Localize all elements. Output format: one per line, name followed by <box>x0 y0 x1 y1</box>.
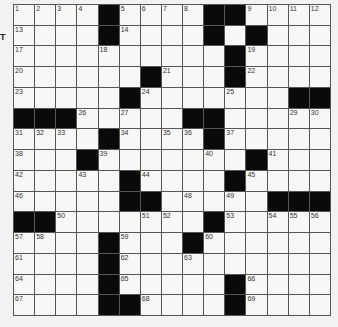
grid-cell[interactable] <box>204 295 224 315</box>
grid-cell[interactable]: 31 <box>14 129 34 149</box>
grid-cell[interactable] <box>99 67 119 87</box>
grid-cell[interactable] <box>141 254 161 274</box>
grid-cell[interactable] <box>99 109 119 129</box>
grid-cell[interactable]: 7 <box>162 5 182 25</box>
grid-cell[interactable] <box>35 67 55 87</box>
grid-cell[interactable] <box>141 26 161 46</box>
grid-cell[interactable]: 33 <box>56 129 76 149</box>
grid-cell[interactable] <box>77 192 97 212</box>
grid-cell[interactable] <box>268 295 288 315</box>
grid-cell[interactable]: 10 <box>268 5 288 25</box>
grid-cell[interactable] <box>289 233 309 253</box>
grid-cell[interactable] <box>204 46 224 66</box>
grid-cell[interactable] <box>35 26 55 46</box>
grid-cell[interactable]: 68 <box>141 295 161 315</box>
grid-cell[interactable] <box>204 171 224 191</box>
grid-cell[interactable] <box>162 192 182 212</box>
grid-cell[interactable] <box>183 295 203 315</box>
grid-cell[interactable]: 69 <box>246 295 266 315</box>
grid-cell[interactable]: 36 <box>183 129 203 149</box>
grid-cell[interactable] <box>310 295 330 315</box>
grid-cell[interactable] <box>56 46 76 66</box>
grid-cell[interactable] <box>289 67 309 87</box>
grid-cell[interactable] <box>99 88 119 108</box>
grid-cell[interactable] <box>77 26 97 46</box>
grid-cell[interactable] <box>310 150 330 170</box>
grid-cell[interactable] <box>77 46 97 66</box>
grid-cell[interactable] <box>225 150 245 170</box>
grid-cell[interactable] <box>56 171 76 191</box>
grid-cell[interactable] <box>35 46 55 66</box>
grid-cell[interactable] <box>246 254 266 274</box>
grid-cell[interactable] <box>99 212 119 232</box>
grid-cell[interactable]: 53 <box>225 212 245 232</box>
grid-cell[interactable] <box>77 88 97 108</box>
grid-cell[interactable]: 51 <box>141 212 161 232</box>
grid-cell[interactable] <box>183 46 203 66</box>
grid-cell[interactable] <box>225 233 245 253</box>
grid-cell[interactable] <box>162 46 182 66</box>
grid-cell[interactable]: 29 <box>289 109 309 129</box>
grid-cell[interactable] <box>246 233 266 253</box>
grid-cell[interactable] <box>35 275 55 295</box>
grid-cell[interactable] <box>268 254 288 274</box>
grid-cell[interactable]: 44 <box>141 171 161 191</box>
grid-cell[interactable] <box>35 295 55 315</box>
grid-cell[interactable]: 57 <box>14 233 34 253</box>
grid-cell[interactable]: 26 <box>77 109 97 129</box>
grid-cell[interactable]: 3 <box>56 5 76 25</box>
grid-cell[interactable] <box>77 275 97 295</box>
grid-cell[interactable] <box>120 67 140 87</box>
grid-cell[interactable] <box>77 212 97 232</box>
grid-cell[interactable]: 60 <box>204 233 224 253</box>
grid-cell[interactable] <box>204 67 224 87</box>
grid-cell[interactable]: 64 <box>14 275 34 295</box>
grid-cell[interactable] <box>120 212 140 232</box>
grid-cell[interactable] <box>141 233 161 253</box>
grid-cell[interactable] <box>246 109 266 129</box>
grid-cell[interactable] <box>56 26 76 46</box>
grid-cell[interactable] <box>289 275 309 295</box>
grid-cell[interactable] <box>183 26 203 46</box>
grid-cell[interactable] <box>35 192 55 212</box>
grid-cell[interactable] <box>246 129 266 149</box>
grid-cell[interactable]: 56 <box>310 212 330 232</box>
grid-cell[interactable] <box>268 275 288 295</box>
grid-cell[interactable] <box>141 275 161 295</box>
grid-cell[interactable] <box>310 67 330 87</box>
grid-cell[interactable] <box>183 88 203 108</box>
grid-cell[interactable] <box>204 275 224 295</box>
grid-cell[interactable] <box>289 150 309 170</box>
grid-cell[interactable]: 2 <box>35 5 55 25</box>
grid-cell[interactable] <box>162 254 182 274</box>
grid-cell[interactable]: 61 <box>14 254 34 274</box>
grid-cell[interactable] <box>289 26 309 46</box>
grid-cell[interactable] <box>162 275 182 295</box>
grid-cell[interactable] <box>268 67 288 87</box>
grid-cell[interactable]: 8 <box>183 5 203 25</box>
grid-cell[interactable]: 55 <box>289 212 309 232</box>
grid-cell[interactable]: 21 <box>162 67 182 87</box>
grid-cell[interactable]: 17 <box>14 46 34 66</box>
grid-cell[interactable]: 59 <box>120 233 140 253</box>
grid-cell[interactable]: 30 <box>310 109 330 129</box>
grid-cell[interactable] <box>56 192 76 212</box>
grid-cell[interactable] <box>56 88 76 108</box>
grid-cell[interactable] <box>56 275 76 295</box>
grid-cell[interactable] <box>310 171 330 191</box>
grid-cell[interactable]: 6 <box>141 5 161 25</box>
grid-cell[interactable] <box>268 46 288 66</box>
grid-cell[interactable]: 25 <box>225 88 245 108</box>
grid-cell[interactable] <box>246 212 266 232</box>
grid-cell[interactable] <box>225 109 245 129</box>
grid-cell[interactable]: 13 <box>14 26 34 46</box>
grid-cell[interactable] <box>268 171 288 191</box>
grid-cell[interactable] <box>183 212 203 232</box>
grid-cell[interactable] <box>162 171 182 191</box>
grid-cell[interactable] <box>310 46 330 66</box>
grid-cell[interactable] <box>35 254 55 274</box>
grid-cell[interactable] <box>268 129 288 149</box>
grid-cell[interactable] <box>183 67 203 87</box>
grid-cell[interactable]: 9 <box>246 5 266 25</box>
grid-cell[interactable] <box>35 150 55 170</box>
